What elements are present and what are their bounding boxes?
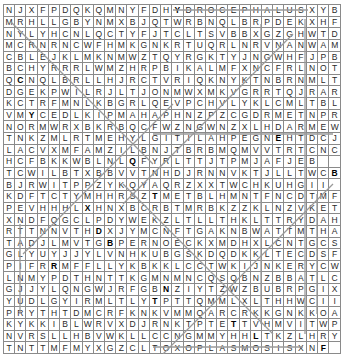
grid-cell[interactable]: R <box>48 260 59 272</box>
grid-cell[interactable]: R <box>26 330 37 342</box>
grid-cell[interactable]: H <box>228 330 239 342</box>
grid-cell[interactable]: I <box>48 179 59 191</box>
grid-cell[interactable]: N <box>104 51 115 63</box>
grid-cell[interactable]: G <box>183 330 194 342</box>
grid-cell[interactable]: G <box>60 16 71 28</box>
grid-cell[interactable]: F <box>82 260 93 272</box>
grid-cell[interactable]: T <box>127 86 138 98</box>
grid-cell[interactable]: J <box>306 51 317 63</box>
grid-cell[interactable]: C <box>306 144 317 156</box>
grid-cell[interactable]: T <box>149 191 160 203</box>
grid-cell[interactable]: C <box>329 144 341 156</box>
grid-cell[interactable]: C <box>15 74 26 86</box>
grid-cell[interactable]: L <box>4 144 15 156</box>
grid-cell[interactable]: Q <box>228 272 239 284</box>
grid-cell[interactable]: T <box>295 237 306 249</box>
grid-cell[interactable]: R <box>194 5 205 17</box>
grid-cell[interactable]: Q <box>217 16 228 28</box>
grid-cell[interactable]: L <box>228 98 239 110</box>
grid-cell[interactable]: H <box>71 330 82 342</box>
grid-cell[interactable]: T <box>273 214 284 226</box>
grid-cell[interactable]: T <box>183 318 194 330</box>
grid-cell[interactable]: T <box>116 295 127 307</box>
grid-cell[interactable]: D <box>205 249 216 261</box>
grid-cell[interactable]: R <box>172 74 183 86</box>
grid-cell[interactable]: C <box>239 179 250 191</box>
grid-cell[interactable]: B <box>37 156 48 168</box>
grid-cell[interactable]: X <box>329 284 341 296</box>
grid-cell[interactable]: I <box>183 132 194 144</box>
grid-cell[interactable]: N <box>183 109 194 121</box>
grid-cell[interactable]: W <box>82 39 93 51</box>
grid-cell[interactable]: T <box>306 272 317 284</box>
grid-cell[interactable]: B <box>60 74 71 86</box>
grid-cell[interactable]: W <box>48 121 59 133</box>
grid-cell[interactable]: T <box>295 132 306 144</box>
grid-cell[interactable]: G <box>295 179 306 191</box>
grid-cell[interactable]: M <box>273 318 284 330</box>
grid-cell[interactable]: P <box>205 109 216 121</box>
grid-cell[interactable]: I <box>318 295 329 307</box>
grid-cell[interactable]: K <box>37 86 48 98</box>
grid-cell[interactable]: K <box>26 318 37 330</box>
grid-cell[interactable]: H <box>318 225 329 237</box>
grid-cell[interactable]: L <box>26 28 37 40</box>
grid-cell[interactable]: H <box>217 132 228 144</box>
grid-cell[interactable]: A <box>205 225 216 237</box>
grid-cell[interactable]: N <box>4 330 15 342</box>
grid-cell[interactable]: K <box>239 167 250 179</box>
grid-cell[interactable]: Y <box>217 330 228 342</box>
grid-cell[interactable]: V <box>15 330 26 342</box>
grid-cell[interactable]: Q <box>48 214 59 226</box>
grid-cell[interactable]: M <box>217 63 228 75</box>
grid-cell[interactable]: Y <box>228 74 239 86</box>
grid-cell[interactable]: K <box>127 272 138 284</box>
grid-cell[interactable]: B <box>138 144 149 156</box>
grid-cell[interactable]: T <box>262 214 273 226</box>
grid-cell[interactable]: M <box>4 16 15 28</box>
grid-cell[interactable]: Z <box>239 284 250 296</box>
grid-cell[interactable]: J <box>60 249 71 261</box>
grid-cell[interactable]: V <box>284 318 295 330</box>
grid-cell[interactable]: D <box>60 5 71 17</box>
grid-cell[interactable]: L <box>93 156 104 168</box>
grid-cell[interactable]: M <box>295 225 306 237</box>
grid-cell[interactable]: V <box>60 225 71 237</box>
grid-cell[interactable]: T <box>82 237 93 249</box>
grid-cell[interactable]: X <box>4 214 15 226</box>
grid-cell[interactable]: R <box>48 39 59 51</box>
grid-cell[interactable]: T <box>217 51 228 63</box>
grid-cell[interactable]: Y <box>4 295 15 307</box>
grid-cell[interactable]: L <box>138 132 149 144</box>
grid-cell[interactable]: K <box>295 307 306 319</box>
grid-cell[interactable]: X <box>48 144 59 156</box>
grid-cell[interactable]: D <box>295 191 306 203</box>
grid-cell[interactable]: T <box>239 318 250 330</box>
grid-cell[interactable]: J <box>183 167 194 179</box>
grid-cell[interactable]: G <box>194 225 205 237</box>
grid-cell[interactable]: X <box>306 16 317 28</box>
grid-cell[interactable]: M <box>26 272 37 284</box>
grid-cell[interactable]: Y <box>37 284 48 296</box>
grid-cell[interactable]: N <box>284 307 295 319</box>
grid-cell[interactable]: Z <box>37 132 48 144</box>
grid-cell[interactable]: L <box>250 295 261 307</box>
grid-cell[interactable]: E <box>239 132 250 144</box>
grid-cell[interactable]: Q <box>149 16 160 28</box>
grid-cell[interactable]: X <box>239 295 250 307</box>
grid-cell[interactable]: C <box>15 39 26 51</box>
grid-cell[interactable]: C <box>183 237 194 249</box>
grid-cell[interactable]: M <box>183 307 194 319</box>
grid-cell[interactable]: T <box>250 167 261 179</box>
grid-cell[interactable]: Z <box>116 342 127 354</box>
grid-cell[interactable]: K <box>262 307 273 319</box>
grid-cell[interactable]: H <box>262 121 273 133</box>
grid-cell[interactable]: R <box>250 39 261 51</box>
grid-cell[interactable]: N <box>161 318 172 330</box>
grid-cell[interactable]: I <box>318 179 329 191</box>
grid-cell[interactable]: B <box>60 167 71 179</box>
grid-cell[interactable]: Y <box>48 249 59 261</box>
grid-cell[interactable]: N <box>161 225 172 237</box>
grid-cell[interactable]: T <box>149 295 160 307</box>
grid-cell[interactable]: X <box>194 179 205 191</box>
